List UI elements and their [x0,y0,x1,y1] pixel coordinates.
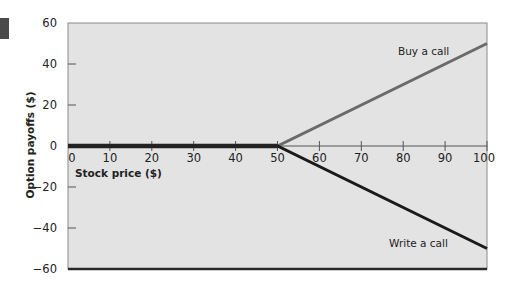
y-tick-label: −40 [33,221,57,235]
buy-call-annotation: Buy a call [398,45,449,57]
x-tick-label: 20 [144,151,159,165]
x-tick-label: 90 [438,151,453,165]
y-tick-label: 40 [42,57,57,71]
x-tick-label: 70 [354,151,369,165]
y-tick-label: 60 [42,16,57,30]
y-tick-label: −60 [33,262,57,276]
y-tick-label: 0 [50,139,57,153]
x-tick-label: 30 [186,151,201,165]
x-tick-label: 50 [270,151,285,165]
y-tick-label: 20 [42,98,57,112]
write-call-annotation: Write a call [389,237,448,249]
chart: 60 40 20 0 −20 −40 −60 Option payoffs ($… [0,0,513,289]
x-tick-label: 40 [228,151,243,165]
y-tick-labels: 60 40 20 0 −20 −40 −60 [33,16,57,276]
y-axis-title: Option payoffs ($) [24,91,36,198]
x-axis-title: Stock price ($) [75,167,162,179]
y-tick-label: −20 [33,180,57,194]
x-tick-label: 0 [68,151,75,165]
x-tick-label: 80 [396,151,411,165]
x-tick-label: 100 [473,151,495,165]
x-tick-label: 10 [103,151,118,165]
